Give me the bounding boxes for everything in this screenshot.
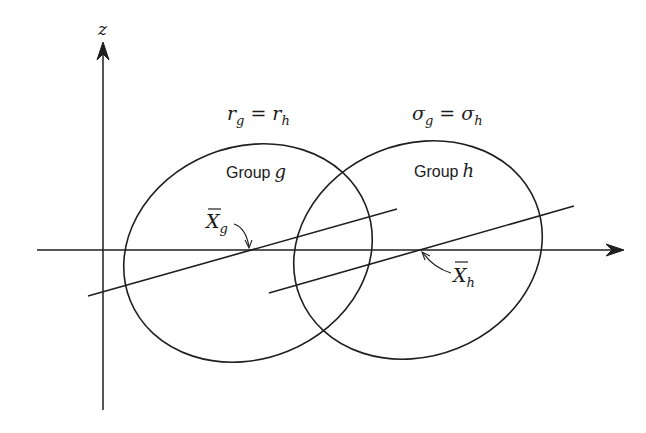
svg-text:Xh: Xh (451, 264, 475, 290)
condition-sigma-equal: σg=σh (412, 102, 483, 128)
group-g-label: Groupg (226, 161, 286, 182)
vertical-axis-label: z (97, 19, 108, 39)
condition-correlation-equal: rg=rh (227, 102, 290, 128)
group-h-label: Grouph (414, 160, 474, 181)
regression-groups-diagram: z rg=rh σg=σh Groupg Grouph (0, 0, 646, 433)
mean-label-group-h: Xh (422, 252, 475, 290)
mean-pointer-arrow-h (423, 253, 451, 273)
svg-text:Xg: Xg (204, 210, 228, 236)
mean-label-group-g: Xg (204, 209, 252, 248)
ellipse-group-g (91, 107, 406, 399)
vertical-axis: z (97, 19, 109, 410)
